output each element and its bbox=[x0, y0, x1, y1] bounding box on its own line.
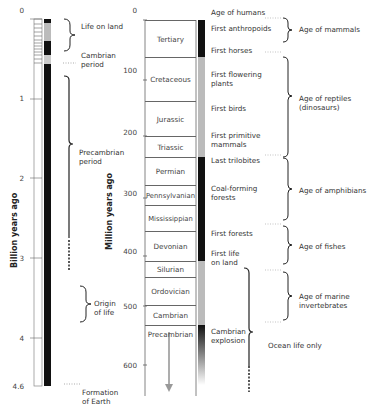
period-mississippian: Mississippian bbox=[145, 205, 196, 231]
period-silurian: Silurian bbox=[145, 261, 196, 277]
right-tick-200: 200 bbox=[115, 128, 137, 137]
left-axis-title: Billion years ago bbox=[10, 193, 19, 268]
annotation-precambrian-period: Precambrian period bbox=[79, 148, 124, 166]
period-ordovician: Ordovician bbox=[145, 277, 196, 305]
event-first-anthropoids: First anthropoids bbox=[211, 24, 271, 33]
period-cretaceous: Cretaceous bbox=[145, 57, 196, 101]
ocean-life-only: Ocean life only bbox=[268, 341, 322, 350]
right-tick-0: 0 bbox=[115, 6, 137, 15]
right-tick-400: 400 bbox=[115, 247, 137, 256]
left-tick-4-6: 4.6 bbox=[2, 382, 24, 391]
event-last-trilobites: Last trilobites bbox=[211, 156, 260, 165]
event-first-horses: First horses bbox=[211, 46, 252, 55]
event-first-forests: First forests bbox=[211, 229, 253, 238]
period-jurassic: Jurassic bbox=[145, 101, 196, 136]
annotation-life-on-land: Life on land bbox=[81, 22, 123, 31]
period-precambrian: Precambrian bbox=[145, 325, 196, 396]
period-tertiary: Tertiary bbox=[145, 20, 196, 57]
left-tick-1: 1 bbox=[2, 94, 24, 103]
event-first-life-on-land: First life on land bbox=[211, 249, 239, 267]
period-table: Tertiary Cretaceous Jurassic Triassic Pe… bbox=[145, 20, 196, 396]
annotation-origin-of-life: Origin of life bbox=[94, 299, 116, 317]
age-of-mammals: Age of mammals bbox=[299, 25, 360, 34]
period-triassic: Triassic bbox=[145, 136, 196, 157]
right-tick-300: 300 bbox=[115, 189, 137, 198]
period-pennsylvanian: Pennsylvanian bbox=[145, 185, 196, 205]
right-tick-600: 600 bbox=[115, 361, 137, 370]
period-cambrian: Cambrian bbox=[145, 305, 196, 325]
age-of-reptiles: Age of reptiles (dinosaurs) bbox=[299, 94, 351, 112]
event-coal-forming-forests: Coal-forming forests bbox=[211, 184, 257, 202]
age-of-fishes: Age of fishes bbox=[299, 242, 345, 251]
event-first-flowering-plants: First flowering plants bbox=[211, 70, 262, 88]
right-axis-title: Million years ago bbox=[105, 173, 114, 250]
right-tick-500: 500 bbox=[115, 302, 137, 311]
left-tick-2: 2 bbox=[2, 174, 24, 183]
age-of-marine-invertebrates: Age of marine invertebrates bbox=[299, 292, 350, 310]
event-cambrian-explosion: Cambrian explosion bbox=[211, 327, 246, 345]
left-tick-4: 4 bbox=[2, 334, 24, 343]
age-of-amphibians: Age of amphibians bbox=[299, 186, 366, 195]
annotation-cambrian-period: Cambrian period bbox=[81, 51, 116, 69]
right-tick-100: 100 bbox=[115, 66, 137, 75]
event-first-primitive-mammals: First primitive mammals bbox=[211, 131, 260, 149]
event-age-of-humans: Age of humans bbox=[211, 8, 265, 17]
annotation-formation-of-earth: Formation of Earth bbox=[82, 388, 118, 406]
event-first-birds: First birds bbox=[211, 104, 246, 113]
period-devonian: Devonian bbox=[145, 231, 196, 261]
period-permian: Permian bbox=[145, 157, 196, 185]
left-tick-0: 0 bbox=[2, 6, 24, 15]
